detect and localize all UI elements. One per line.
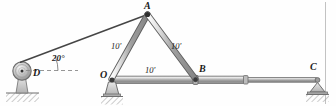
label-point-c: C bbox=[310, 62, 317, 72]
label-dim-member-ob: 10' bbox=[145, 66, 155, 75]
label-point-d: D bbox=[33, 68, 40, 78]
label-point-b: B bbox=[199, 64, 206, 74]
beam-o-to-c bbox=[110, 75, 317, 84]
ground-hatch-icon-left bbox=[6, 93, 39, 102]
figure-canvas bbox=[0, 0, 336, 106]
label-point-a: A bbox=[144, 1, 151, 11]
statics-figure: A B C D O 20° 10' 10' 10' bbox=[0, 0, 336, 106]
joint-a bbox=[145, 12, 150, 17]
label-point-o: O bbox=[100, 70, 107, 80]
label-dim-member-ab: 10' bbox=[171, 42, 181, 51]
pulley-icon bbox=[13, 62, 31, 80]
label-dim-member-oa: 10' bbox=[111, 42, 121, 51]
label-angle-20deg: 20° bbox=[52, 54, 65, 63]
joint-b bbox=[193, 77, 197, 81]
cable-d-to-a bbox=[21, 15, 148, 63]
